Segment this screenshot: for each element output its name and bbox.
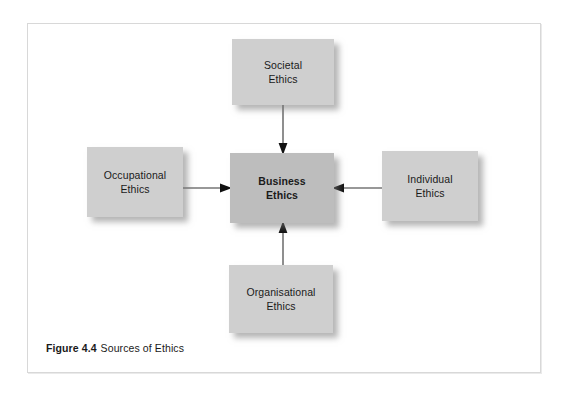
node-societal-ethics[interactable]: Societal Ethics	[232, 39, 334, 105]
figure-container: Societal Ethics Occupational Ethics Busi…	[0, 0, 566, 395]
figure-caption-number: Figure 4.4	[46, 342, 97, 354]
node-occupational-ethics-label: Occupational Ethics	[104, 168, 167, 196]
node-individual-ethics-label: Individual Ethics	[407, 172, 452, 200]
arrow-individual-to-business	[332, 182, 384, 194]
node-occupational-ethics[interactable]: Occupational Ethics	[87, 147, 183, 217]
figure-caption: Figure 4.4Sources of Ethics	[46, 342, 184, 354]
node-business-ethics-label: Business Ethics	[258, 174, 306, 202]
arrow-occupational-to-business	[183, 182, 232, 194]
figure-caption-text: Sources of Ethics	[101, 342, 184, 354]
node-societal-ethics-label: Societal Ethics	[264, 58, 302, 86]
node-organisational-ethics[interactable]: Organisational Ethics	[229, 265, 333, 333]
arrow-societal-to-business	[277, 105, 289, 155]
node-business-ethics[interactable]: Business Ethics	[230, 153, 334, 223]
arrow-organisational-to-business	[277, 221, 289, 267]
node-organisational-ethics-label: Organisational Ethics	[246, 285, 315, 313]
node-individual-ethics[interactable]: Individual Ethics	[382, 151, 478, 221]
figure-frame: Societal Ethics Occupational Ethics Busi…	[27, 23, 541, 373]
